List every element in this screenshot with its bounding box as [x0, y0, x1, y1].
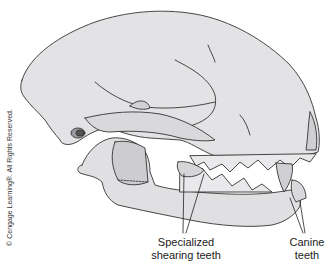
label-shearing-teeth: Specialized shearing teeth [146, 236, 226, 262]
label-canine-teeth: Canine teeth [287, 236, 326, 262]
skull-illustration [0, 0, 326, 269]
copyright-notice: © Cengage Learning®. All Rights Reserved… [6, 83, 13, 269]
upper-teeth [190, 154, 316, 172]
upper-canine [276, 163, 293, 192]
